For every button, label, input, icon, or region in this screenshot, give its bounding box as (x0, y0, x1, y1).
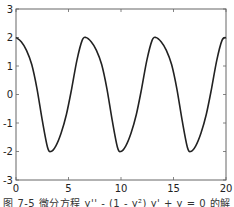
x-tick-label: 10 (115, 183, 128, 194)
y-tick-label: 2 (7, 32, 13, 43)
y-tick-label: 3 (7, 4, 13, 15)
y-tick-label: 0 (7, 89, 13, 100)
chart: 05101520-3-2-10123 (0, 0, 234, 195)
y-tick-label: -1 (3, 118, 13, 129)
y-tick-label: -2 (3, 146, 13, 157)
x-tick-label: 5 (65, 183, 71, 194)
y-tick-label: 1 (7, 61, 13, 72)
y-tick-label: -3 (3, 175, 13, 186)
axes-frame (16, 9, 226, 180)
x-tick-label: 0 (13, 183, 19, 194)
plot-area: 05101520-3-2-10123 (3, 4, 232, 195)
x-tick-label: 15 (167, 183, 180, 194)
x-tick-label: 20 (220, 183, 233, 194)
figure-caption: 图 7-5 微分方程 y'' - (1 - y²) y' + y = 0 的解 (0, 195, 234, 207)
